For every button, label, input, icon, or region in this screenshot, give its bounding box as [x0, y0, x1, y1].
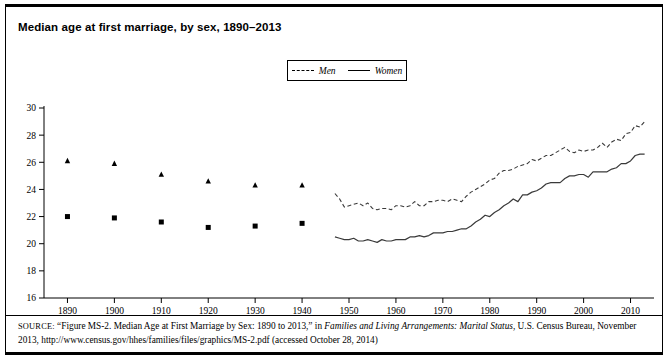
- y-tick-label: 16: [27, 293, 37, 303]
- y-tick-label: 22: [27, 212, 37, 222]
- figure-container: Median age at first marriage, by sex, 18…: [5, 4, 663, 355]
- y-tick-label: 26: [27, 158, 37, 168]
- marker-triangle-1900: [112, 161, 117, 166]
- y-axis: 1618202224262830: [27, 103, 45, 303]
- marker-square-1890: [65, 214, 70, 219]
- data-series-group: [335, 122, 645, 243]
- y-tick-label: 24: [27, 185, 37, 195]
- marker-square-1940: [300, 221, 305, 226]
- source-note: SOURCE: “Figure MS-2. Median Age at Firs…: [18, 320, 652, 346]
- y-tick-label: 30: [27, 103, 37, 113]
- plot-area: 1618202224262830 18901900191019201930194…: [6, 7, 664, 358]
- source-label: SOURCE:: [18, 322, 55, 331]
- y-tick-label: 20: [27, 239, 37, 249]
- y-tick-label: 18: [27, 266, 37, 276]
- marker-square-1920: [206, 225, 211, 230]
- marker-triangle-1890: [65, 158, 70, 163]
- series-line-women: [335, 154, 645, 242]
- source-separator: [6, 315, 662, 316]
- marker-triangle-1940: [299, 182, 304, 187]
- marker-square-1930: [253, 224, 258, 229]
- x-axis: 1890190019101920193019401950196019701980…: [44, 298, 654, 316]
- marker-square-1900: [112, 215, 117, 220]
- y-tick-label: 28: [27, 131, 37, 141]
- chart-svg: 1618202224262830 18901900191019201930194…: [6, 7, 664, 317]
- marker-triangle-1910: [159, 171, 164, 176]
- marker-triangle-1930: [252, 182, 257, 187]
- source-text-part-1: “Figure MS-2. Median Age at First Marria…: [57, 321, 324, 331]
- decade-markers-group: [65, 158, 305, 230]
- marker-triangle-1920: [206, 178, 211, 183]
- source-text-italic: Families and Living Arrangements: Marita…: [324, 321, 513, 331]
- series-line-men: [335, 122, 645, 210]
- marker-square-1910: [159, 220, 164, 225]
